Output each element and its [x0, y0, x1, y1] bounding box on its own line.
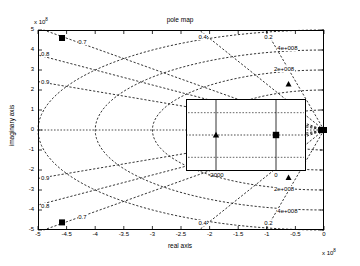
x-tick-label: -0.5 — [280, 231, 310, 237]
damping-ratio-label: 0.9 — [41, 79, 50, 85]
x-tick-label: -3.5 — [109, 231, 139, 237]
y-tick-label: -5 — [18, 226, 34, 232]
damping-ratio-label: 0.4 — [198, 34, 207, 40]
x-tick-label: -1 — [252, 231, 282, 237]
y-tick-label: 5 — [18, 26, 34, 32]
x-axis-exponent: x 108 — [322, 248, 336, 256]
inset-plot-frame — [186, 99, 306, 171]
x-tick-label: -1.5 — [223, 231, 253, 237]
x-axis-exponent-text: x 10 — [322, 250, 333, 256]
x-tick-label: -2 — [195, 231, 225, 237]
y-tick-label: -3 — [18, 186, 34, 192]
x-tick-label: 0 — [309, 231, 339, 237]
x-axis-label: real axis — [0, 242, 360, 249]
x-tick-label: -2.5 — [166, 231, 196, 237]
damping-ratio-label: 0.2 — [264, 34, 273, 40]
damping-ratio-label: 0.4 — [198, 220, 207, 226]
y-axis-label: imaginary axis — [8, 83, 15, 169]
y-tick-label: 4 — [18, 46, 34, 52]
x-tick-label: -3 — [137, 231, 167, 237]
natural-frequency-label: 2e+008 — [273, 186, 294, 192]
y-tick-label: -4 — [18, 206, 34, 212]
natural-frequency-label: 4e+008 — [277, 208, 298, 214]
y-tick-label: 1 — [18, 106, 34, 112]
y-axis-exponent-text: x 10 — [34, 19, 45, 25]
y-tick-label: 0 — [18, 126, 34, 132]
inset-tick-label: -2000 — [196, 172, 236, 178]
y-axis-exponent: x 108 — [34, 17, 48, 25]
x-tick-label: -4 — [80, 231, 110, 237]
y-axis-exponent-power: 8 — [45, 17, 48, 22]
x-tick-label: -4.5 — [52, 231, 82, 237]
natural-frequency-label: 4e+008 — [277, 45, 298, 51]
y-tick-label: 3 — [18, 66, 34, 72]
damping-ratio-label: 0.7 — [78, 214, 87, 220]
damping-ratio-label: 0.2 — [264, 220, 273, 226]
y-tick-label: -2 — [18, 166, 34, 172]
damping-ratio-label: 0.7 — [78, 39, 87, 45]
damping-ratio-label: 0.8 — [41, 51, 50, 57]
y-tick-label: 2 — [18, 86, 34, 92]
y-tick-label: -1 — [18, 146, 34, 152]
chart-title: pole map — [0, 16, 360, 23]
damping-ratio-label: 0.8 — [41, 203, 50, 209]
pole-map-figure: pole map x 108 x 108 real axis imaginary… — [0, 0, 360, 266]
inset-tick-label: 0 — [256, 172, 296, 178]
damping-ratio-label: 0.9 — [41, 175, 50, 181]
natural-frequency-label: 2e+008 — [273, 66, 294, 72]
